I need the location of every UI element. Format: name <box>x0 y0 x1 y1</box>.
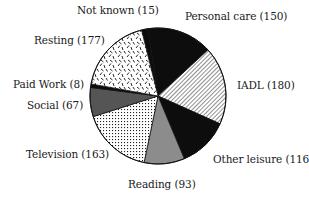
pie-slices <box>90 28 226 164</box>
label-not-known: Not known (15) <box>77 4 159 16</box>
label-paid-work: Paid Work (8) <box>13 78 84 90</box>
label-personal-care: Personal care (150) <box>185 10 287 22</box>
label-social: Social (67) <box>27 99 83 111</box>
label-resting: Resting (177) <box>34 34 105 46</box>
label-iadl: IADL (180) <box>237 79 295 91</box>
label-television: Television (163) <box>26 148 109 160</box>
pie-chart: Not known (15) Personal care (150) Resti… <box>0 0 309 201</box>
label-other-leisure: Other leisure (116) <box>213 153 309 165</box>
label-reading: Reading (93) <box>128 178 196 190</box>
